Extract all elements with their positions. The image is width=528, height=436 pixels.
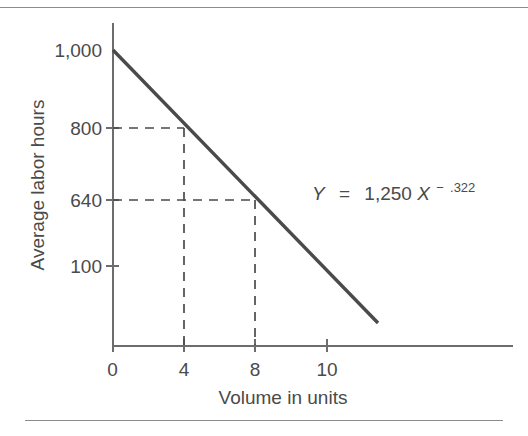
- x-tick-label-8: 8: [250, 359, 261, 380]
- equation-text: Y = 1,250 X − .322: [312, 175, 475, 204]
- y-axis-title: Average labor hours: [27, 100, 48, 271]
- equation-y-symbol: Y: [312, 183, 326, 204]
- equation-exponent-value: .322: [450, 180, 475, 195]
- learning-curve-chart: 1,000 800 640 100 0 4 8 10 Average labor…: [0, 0, 528, 436]
- y-tick-label-640: 640: [70, 190, 102, 211]
- equation-coefficient: 1,250: [364, 183, 412, 204]
- equation-annotation: Y = 1,250 X − .322: [312, 175, 475, 204]
- x-tick-label-10: 10: [316, 359, 337, 380]
- x-axis-title: Volume in units: [219, 387, 348, 408]
- equation-exponent-sign: −: [436, 180, 444, 195]
- y-tick-label-1000: 1,000: [54, 40, 102, 61]
- x-tick-label-4: 4: [179, 359, 190, 380]
- equation-equals-sign: =: [339, 183, 350, 204]
- x-axis-tick-labels: 0 4 8 10: [107, 359, 337, 380]
- y-tick-label-800: 800: [70, 118, 102, 139]
- y-tick-label-100: 100: [70, 256, 102, 277]
- x-tick-label-0: 0: [107, 359, 118, 380]
- y-axis-tick-labels: 1,000 800 640 100: [54, 40, 102, 277]
- equation-x-symbol: X: [416, 183, 431, 204]
- figure-container: 1,000 800 640 100 0 4 8 10 Average labor…: [0, 0, 528, 436]
- guide-lines-group: [113, 128, 255, 345]
